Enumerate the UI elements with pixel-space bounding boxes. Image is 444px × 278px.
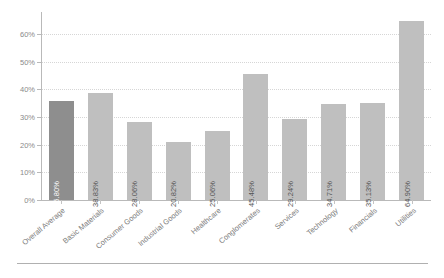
bar[interactable]: 38.83%	[88, 93, 113, 200]
y-axis-tick-label: 20%	[3, 141, 35, 150]
category-slot: Technology	[314, 204, 353, 256]
y-axis-tick-label: 40%	[3, 85, 35, 94]
bar-slot: 35.80%	[42, 12, 81, 200]
bar[interactable]: 35.80%	[49, 101, 74, 200]
category-label: Utilities	[393, 206, 417, 228]
y-axis-tick-mark	[37, 89, 41, 90]
bar-slot: 29.24%	[275, 12, 314, 200]
y-axis-tick-label: 0%	[3, 196, 35, 205]
y-axis-tick-mark	[37, 34, 41, 35]
category-label: Services	[273, 206, 301, 231]
footer-divider	[17, 263, 428, 264]
bar[interactable]: 29.24%	[282, 119, 307, 200]
bar-slot: 45.48%	[237, 12, 276, 200]
y-axis-tick-label: 50%	[3, 58, 35, 67]
bar[interactable]: 35.13%	[360, 103, 385, 200]
y-axis-tick-label: 10%	[3, 168, 35, 177]
bar-slot: 64.90%	[392, 12, 431, 200]
bar-slot: 34.71%	[314, 12, 353, 200]
bar-chart: 0%10%20%30%40%50%60% 35.80%38.83%28.06%2…	[0, 0, 444, 278]
category-slot: Utilities	[392, 204, 431, 256]
bar[interactable]: 64.90%	[399, 21, 424, 200]
bars-layer: 35.80%38.83%28.06%20.82%25.06%45.48%29.2…	[42, 12, 431, 200]
y-axis-tick-mark	[37, 62, 41, 63]
bar[interactable]: 34.71%	[321, 104, 346, 200]
y-axis-tick-label: 60%	[3, 30, 35, 39]
category-labels: Overall AverageBasic MaterialsConsumer G…	[42, 204, 431, 256]
bar[interactable]: 25.06%	[205, 131, 230, 200]
bar-slot: 28.06%	[120, 12, 159, 200]
bar[interactable]: 28.06%	[127, 122, 152, 200]
bar-slot: 35.13%	[353, 12, 392, 200]
category-label: Overall Average	[21, 206, 68, 247]
y-axis-tick-label: 30%	[3, 113, 35, 122]
bar[interactable]: 45.48%	[243, 74, 268, 200]
plot-area: 0%10%20%30%40%50%60% 35.80%38.83%28.06%2…	[41, 12, 431, 200]
bar-slot: 38.83%	[81, 12, 120, 200]
y-axis-tick-mark	[37, 117, 41, 118]
bar-slot: 20.82%	[159, 12, 198, 200]
bar-slot: 25.06%	[198, 12, 237, 200]
category-slot: Financials	[353, 204, 392, 256]
bar[interactable]: 20.82%	[166, 142, 191, 200]
y-axis-tick-mark	[37, 200, 41, 201]
y-axis-tick-mark	[37, 145, 41, 146]
category-slot: Conglomerates	[237, 204, 276, 256]
y-axis-tick-mark	[37, 172, 41, 173]
